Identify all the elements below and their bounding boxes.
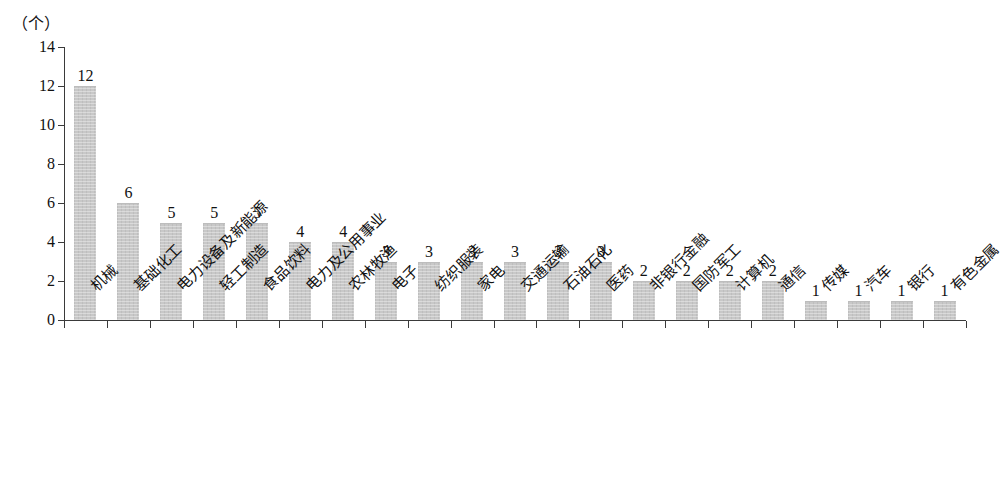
x-tick-mark: [322, 321, 323, 328]
x-tick-mark: [708, 321, 709, 328]
x-tick-mark: [751, 321, 752, 328]
bar-value-label: 1: [941, 283, 949, 299]
y-tick-mark: [58, 125, 64, 126]
x-tick-mark: [193, 321, 194, 328]
x-tick-mark: [451, 321, 452, 328]
y-axis-unit-label: （个）: [12, 10, 60, 34]
x-tick-mark: [365, 321, 366, 328]
bar: 3: [418, 262, 440, 321]
x-tick-mark: [837, 321, 838, 328]
x-axis-line: [64, 320, 966, 321]
x-tick-mark: [966, 321, 967, 328]
bar-value-label: 3: [425, 244, 433, 260]
bar: 6: [117, 203, 139, 320]
y-axis-line: [64, 47, 65, 320]
y-tick-label: 10: [39, 117, 55, 133]
y-tick-mark: [58, 281, 64, 282]
bar-value-label: 4: [339, 224, 347, 240]
bar-value-label: 12: [77, 68, 93, 84]
y-tick-mark: [58, 47, 64, 48]
bar-value-label: 4: [296, 224, 304, 240]
x-tick-mark: [494, 321, 495, 328]
bar: 1: [848, 301, 870, 321]
x-tick-mark: [880, 321, 881, 328]
bar: 1: [805, 301, 827, 321]
bar-value-label: 5: [210, 205, 218, 221]
bar-value-label: 6: [124, 185, 132, 201]
y-tick-label: 14: [39, 39, 55, 55]
y-tick-mark: [58, 242, 64, 243]
bar-value-label: 2: [640, 263, 648, 279]
x-tick-mark: [236, 321, 237, 328]
x-tick-mark: [107, 321, 108, 328]
y-tick-label: 0: [47, 312, 55, 328]
y-tick-mark: [58, 203, 64, 204]
x-tick-mark: [64, 321, 65, 328]
bar-value-label: 1: [855, 283, 863, 299]
y-tick-label: 6: [47, 195, 55, 211]
y-tick-label: 4: [47, 234, 55, 250]
x-tick-mark: [579, 321, 580, 328]
x-tick-mark: [150, 321, 151, 328]
y-tick-mark: [58, 86, 64, 87]
x-tick-mark: [622, 321, 623, 328]
x-tick-mark: [794, 321, 795, 328]
bar: 1: [934, 301, 956, 321]
bar-value-label: 5: [167, 205, 175, 221]
bar-value-label: 3: [511, 244, 519, 260]
x-tick-mark: [408, 321, 409, 328]
x-tick-mark: [665, 321, 666, 328]
x-tick-mark: [536, 321, 537, 328]
y-tick-label: 8: [47, 156, 55, 172]
y-tick-label: 2: [47, 273, 55, 289]
x-tick-mark: [923, 321, 924, 328]
x-tick-mark: [279, 321, 280, 328]
bar: 1: [891, 301, 913, 321]
y-tick-label: 12: [39, 78, 55, 94]
bar-value-label: 1: [898, 283, 906, 299]
y-tick-mark: [58, 164, 64, 165]
bar-value-label: 1: [812, 283, 820, 299]
bar: 3: [504, 262, 526, 321]
